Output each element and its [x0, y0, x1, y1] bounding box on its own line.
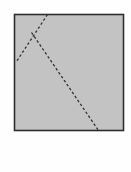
- caption-area: (: [0, 142, 131, 172]
- gray-square: [15, 15, 124, 131]
- figure-container: (: [0, 0, 131, 172]
